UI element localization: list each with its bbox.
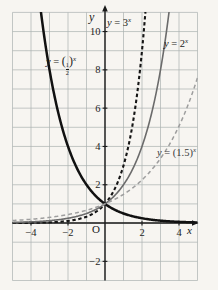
y-tick-label: 8 [95, 64, 100, 75]
y-tick-label: −2 [89, 256, 100, 267]
curve-2-exponent: x [185, 37, 188, 45]
curve-half-eq: = [51, 56, 62, 67]
curve-half-exponent: x [73, 55, 76, 63]
y-tick-label: 2 [95, 179, 100, 190]
x-tick-label: −2 [62, 227, 73, 238]
fraction-denominator: 2 [66, 70, 69, 77]
x-tick-label: −4 [25, 227, 37, 238]
y-axis-label: y [89, 10, 94, 25]
curve-15-eq: = [162, 147, 173, 158]
x-tick-label: 4 [176, 227, 182, 238]
origin-label: O [92, 223, 100, 235]
y-tick-label: 4 [95, 141, 101, 152]
x-tick-label: 2 [139, 227, 144, 238]
curve-label-half-x: y = (12)x [46, 55, 76, 76]
curve-label-3x: y = 3x [107, 17, 131, 29]
curve-15-exponent: x [193, 146, 196, 154]
curve-3-eq: = [112, 17, 123, 28]
y-axis-arrow [102, 5, 108, 11]
curve-label-2x: y = 2x [164, 38, 188, 50]
y-tick-label: 6 [95, 103, 100, 114]
curve-3-exponent: x [128, 16, 131, 24]
curve-label-1-5x: y = (1.5)x [157, 147, 196, 159]
x-axis-label: x [187, 224, 192, 236]
y-tick-label: 10 [90, 26, 101, 37]
exponential-functions-figure: −4−224−2246810 y x O y = 3x y = 2x y = (… [0, 0, 218, 290]
curve-2-eq: = [169, 38, 180, 49]
curve-15-base: (1.5) [173, 147, 193, 158]
